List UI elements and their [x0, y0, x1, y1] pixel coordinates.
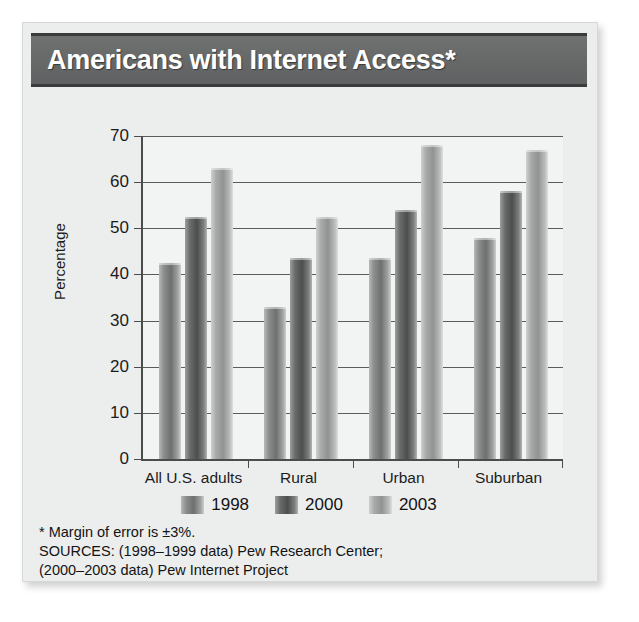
bar-2000-rural: [290, 258, 312, 459]
y-axis-tick: [134, 367, 143, 368]
y-axis-tick: [134, 182, 143, 183]
y-axis-tick-label: 70: [110, 126, 129, 146]
y-axis-label: Percentage: [51, 192, 68, 332]
legend-item-2003[interactable]: 2003: [369, 495, 437, 515]
y-axis-tick-label: 30: [110, 311, 129, 331]
y-axis-tick: [134, 459, 143, 460]
x-axis-labels: All U.S. adultsRuralUrbanSuburban: [141, 469, 561, 487]
footnote-line: * Margin of error is ±3%.: [39, 523, 579, 542]
y-axis-tick: [134, 413, 143, 414]
footnote-line: (2000–2003 data) Pew Internet Project: [39, 561, 579, 580]
bar-2003-urban: [421, 145, 443, 459]
bar-group: [143, 136, 248, 459]
bar-group: [353, 136, 458, 459]
legend-swatch-icon: [369, 496, 392, 514]
legend-item-1998[interactable]: 1998: [181, 495, 249, 515]
chart-title-bar: Americans with Internet Access*: [31, 33, 587, 87]
chart-page: Americans with Internet Access* Percenta…: [0, 0, 639, 622]
legend: 199820002003: [31, 495, 587, 515]
x-axis-category-label: Urban: [351, 469, 456, 487]
bar-2000-urban: [395, 210, 417, 459]
bar-2003-all-u-s-adults: [211, 168, 233, 459]
y-axis-tick-label: 0: [120, 449, 129, 469]
legend-swatch-icon: [181, 496, 204, 514]
bar-1998-suburban: [474, 238, 496, 459]
y-axis-tick-label: 10: [110, 403, 129, 423]
bar-2003-suburban: [526, 150, 548, 459]
bar-1998-urban: [369, 258, 391, 459]
x-axis-category-label: Rural: [246, 469, 351, 487]
x-axis-category-label: Suburban: [456, 469, 561, 487]
page-title: Americans with Internet Access*: [31, 45, 455, 76]
chart-card: Americans with Internet Access* Percenta…: [22, 22, 598, 582]
y-axis-tick: [134, 136, 143, 137]
legend-item-2000[interactable]: 2000: [275, 495, 343, 515]
x-axis-tick: [458, 459, 459, 468]
legend-label: 1998: [211, 495, 249, 515]
chart-area: Percentage 706050403020100 All U.S. adul…: [31, 93, 587, 493]
y-axis-tick: [134, 274, 143, 275]
y-axis-tick: [134, 228, 143, 229]
bar-2003-rural: [316, 217, 338, 459]
x-axis-tick: [353, 459, 354, 468]
bar-group: [248, 136, 353, 459]
y-axis-tick-label: 60: [110, 172, 129, 192]
bar-1998-rural: [264, 307, 286, 459]
y-axis-tick-label: 50: [110, 218, 129, 238]
x-axis-tick: [248, 459, 249, 468]
legend-label: 2000: [305, 495, 343, 515]
legend-swatch-icon: [275, 496, 298, 514]
bar-2000-all-u-s-adults: [185, 217, 207, 459]
bar-group: [458, 136, 563, 459]
bar-1998-all-u-s-adults: [159, 263, 181, 459]
plot-area: 706050403020100: [141, 136, 563, 461]
y-axis-tick-label: 40: [110, 264, 129, 284]
x-axis-category-label: All U.S. adults: [141, 469, 246, 487]
bar-2000-suburban: [500, 191, 522, 459]
footnote-line: SOURCES: (1998–1999 data) Pew Research C…: [39, 542, 579, 561]
x-axis-tick: [562, 459, 563, 468]
bar-groups: [143, 136, 563, 459]
footnotes: * Margin of error is ±3%.SOURCES: (1998–…: [39, 523, 579, 580]
y-axis-tick-label: 20: [110, 357, 129, 377]
legend-label: 2003: [399, 495, 437, 515]
y-axis-tick: [134, 321, 143, 322]
